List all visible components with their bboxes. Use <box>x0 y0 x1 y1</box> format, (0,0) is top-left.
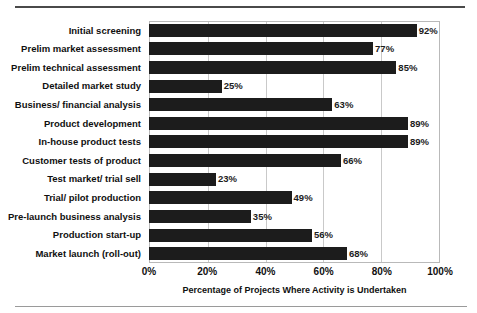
bar-value-label: 68% <box>349 249 368 259</box>
x-tick-label: 100% <box>427 267 453 277</box>
bar-row: 77% <box>149 40 440 59</box>
bar <box>149 61 396 74</box>
category-label: Product development <box>0 114 145 133</box>
bar <box>149 247 347 260</box>
bar-value-label: 56% <box>314 230 333 240</box>
category-label: Trial/ pilot production <box>0 188 145 207</box>
bar <box>149 98 332 111</box>
bar-value-label: 35% <box>253 212 272 222</box>
bar-value-label: 49% <box>294 193 313 203</box>
bar-row: 35% <box>149 207 440 226</box>
bar <box>149 210 251 223</box>
x-axis-title: Percentage of Projects Where Activity is… <box>149 286 440 295</box>
bar-row: 63% <box>149 95 440 114</box>
bar <box>149 135 408 148</box>
bar-chart-figure: Initial screeningPrelim market assessmen… <box>0 0 477 313</box>
category-label: Customer tests of product <box>0 151 145 170</box>
x-tick-label: 20% <box>197 267 217 277</box>
x-tick-label: 40% <box>255 267 275 277</box>
bar-value-label: 85% <box>398 63 417 73</box>
bar <box>149 80 222 93</box>
category-label: Production start-up <box>0 226 145 245</box>
bar-row: 23% <box>149 170 440 189</box>
bar-row: 49% <box>149 188 440 207</box>
bar-value-label: 92% <box>419 26 438 36</box>
category-label: Prelim market assessment <box>0 40 145 59</box>
category-label: In-house product tests <box>0 133 145 152</box>
category-label: Business/ financial analysis <box>0 95 145 114</box>
category-label: Detailed market study <box>0 77 145 96</box>
bar <box>149 154 341 167</box>
bar-value-label: 63% <box>334 100 353 110</box>
top-divider-rule <box>15 6 465 8</box>
bar <box>149 191 292 204</box>
bar-row: 25% <box>149 77 440 96</box>
bar-row: 66% <box>149 151 440 170</box>
bar <box>149 229 312 242</box>
bar-row: 68% <box>149 244 440 263</box>
bottom-divider-rule <box>15 306 467 307</box>
bar-row: 85% <box>149 58 440 77</box>
bars-layer: 92%77%85%25%63%89%89%66%23%49%35%56%68% <box>149 21 440 263</box>
bar-row: 56% <box>149 226 440 245</box>
bar <box>149 42 373 55</box>
bar-value-label: 23% <box>218 174 237 184</box>
bar-value-label: 89% <box>410 137 429 147</box>
category-label: Pre-launch business analysis <box>0 207 145 226</box>
bar <box>149 24 417 37</box>
bar <box>149 117 408 130</box>
x-tick-label: 60% <box>314 267 334 277</box>
x-axis-tick-labels: 0%20%40%60%80%100% <box>149 267 440 281</box>
category-axis-labels: Initial screeningPrelim market assessmen… <box>0 21 145 263</box>
bar-value-label: 89% <box>410 119 429 129</box>
x-tick-label: 80% <box>372 267 392 277</box>
bar <box>149 173 216 186</box>
category-label: Test market/ trial sell <box>0 170 145 189</box>
category-label: Market launch (roll-out) <box>0 244 145 263</box>
bar-value-label: 25% <box>224 81 243 91</box>
bar-row: 89% <box>149 114 440 133</box>
category-label: Initial screening <box>0 21 145 40</box>
x-tick-label: 0% <box>142 267 156 277</box>
bar-row: 92% <box>149 21 440 40</box>
bar-value-label: 77% <box>375 44 394 54</box>
category-label: Prelim technical assessment <box>0 58 145 77</box>
bar-value-label: 66% <box>343 156 362 166</box>
bar-row: 89% <box>149 133 440 152</box>
